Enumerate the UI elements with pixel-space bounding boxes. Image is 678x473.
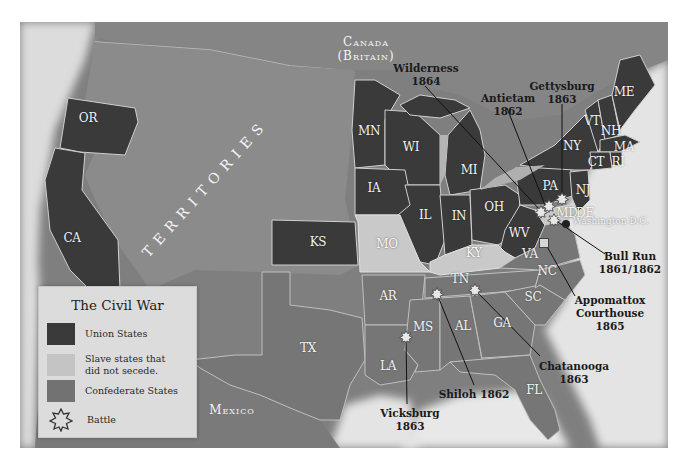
- state-label-me: ME: [614, 85, 634, 99]
- legend-item-border: Slave states thatdid not secede.: [47, 353, 165, 377]
- state-label-nh: NH: [601, 124, 621, 138]
- state-label-sc: SC: [525, 290, 542, 304]
- battle-label-shiloh: Shiloh 1862: [439, 388, 510, 401]
- state-label-ri: RI: [611, 155, 624, 169]
- state-label-nc: NC: [537, 264, 556, 278]
- star-icon: [49, 408, 73, 432]
- battle-star-icon: [399, 330, 413, 344]
- state-label-ar: AR: [379, 289, 396, 303]
- battle-label-gettysburg: Gettysburg1863: [529, 80, 594, 106]
- battle-label-vicksburg: Vicksburg1863: [380, 407, 439, 433]
- state-label-mn: MN: [358, 124, 380, 138]
- confederate-swatch: [47, 380, 75, 402]
- legend-item-battle: Battle: [47, 408, 116, 432]
- state-label-wv: WV: [509, 226, 529, 240]
- union-swatch: [47, 323, 75, 345]
- legend-item-confederate: Confederate States: [47, 380, 178, 402]
- battle-label-chatanooga: Chatanooga1863: [539, 360, 609, 386]
- legend-item-union: Union States: [47, 323, 147, 345]
- border-state-swatch: [47, 354, 75, 376]
- state-label-al: AL: [455, 319, 471, 333]
- state-label-tn: TN: [451, 272, 469, 286]
- state-label-vt: VT: [584, 114, 600, 128]
- capital-label: Washington D.C.: [573, 216, 649, 226]
- state-label-ma: MA: [614, 140, 634, 154]
- state-label-ky: KY: [466, 246, 482, 260]
- state-label-ca: CA: [63, 231, 80, 245]
- state-label-nj: NJ: [576, 183, 591, 197]
- battle-star-icon: [555, 192, 569, 206]
- appomattox-marker-icon: [539, 238, 549, 248]
- state-label-mo: MO: [376, 237, 398, 251]
- state-label-mi: MI: [461, 163, 477, 177]
- battle-star-icon: [542, 199, 556, 213]
- state-label-va: VA: [522, 247, 538, 261]
- capital-marker: [562, 220, 570, 228]
- battle-label-antietam: Antietam1862: [481, 92, 535, 118]
- region-label-canada: Canada (Britain): [337, 35, 394, 63]
- state-label-ia: IA: [368, 181, 381, 195]
- state-label-ct: CT: [588, 155, 605, 169]
- state-label-or: OR: [79, 111, 97, 125]
- legend-title: The Civil War: [39, 297, 196, 313]
- battle-star-icon: [468, 283, 482, 297]
- state-label-la: LA: [380, 359, 396, 373]
- state-label-ks: KS: [310, 235, 327, 249]
- state-label-ms: MS: [413, 320, 433, 334]
- state-label-pa: PA: [542, 179, 557, 193]
- state-label-in: IN: [452, 209, 467, 223]
- battle-star-icon: [430, 287, 444, 301]
- map-legend: The Civil War Union States Slave states …: [38, 286, 197, 438]
- state-label-ga: GA: [493, 316, 511, 330]
- state-label-il: IL: [419, 208, 431, 222]
- state-label-tx: TX: [300, 341, 316, 355]
- state-label-ny: NY: [563, 139, 581, 153]
- state-label-wi: WI: [403, 140, 419, 154]
- battle-label-appomattox: AppomattoxCourthouse1865: [575, 294, 646, 333]
- battle-label-bull-run: Bull Run1861/1862: [599, 250, 661, 276]
- battle-label-wilderness: Wilderness1864: [393, 62, 458, 88]
- region-label-mexico: Mexico: [209, 403, 255, 417]
- state-label-oh: OH: [484, 200, 504, 214]
